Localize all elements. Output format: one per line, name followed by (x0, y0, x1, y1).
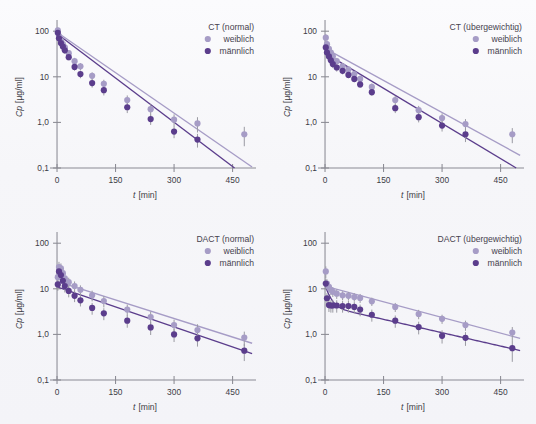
data-point (334, 302, 340, 308)
legend-title: CT (übergewichtig) (450, 22, 523, 32)
data-points-männlich (323, 44, 469, 137)
data-point (323, 35, 329, 41)
data-point (339, 292, 345, 298)
data-point (55, 281, 61, 287)
data-point (345, 303, 351, 309)
y-tick-label: 100 (35, 26, 49, 36)
data-point (89, 80, 95, 86)
y-axis-title: Cp[µg/ml] (282, 77, 292, 117)
data-point (392, 105, 398, 111)
y-tick-label: 1,0 (305, 329, 317, 339)
y-tick-label: 0,1 (37, 375, 49, 385)
panel-dact-normal: 0,11,0101000150300450t[min]Cp[µg/ml]DACT… (0, 212, 268, 424)
x-tick-label: 450 (494, 175, 508, 185)
data-point (351, 76, 357, 82)
chart-ct-uebergewichtig: 0,11,0101000150300450t[min]Cp[µg/ml]CT (… (268, 0, 536, 212)
legend-label-männlich: männlich (488, 258, 523, 268)
x-tick-label: 0 (323, 387, 328, 397)
legend-marker-männlich (473, 260, 479, 266)
y-tick-label: 0,1 (305, 163, 317, 173)
x-tick-label: 0 (55, 175, 60, 185)
data-point (369, 298, 375, 304)
data-point (392, 97, 398, 103)
data-point (194, 120, 200, 126)
x-axis-ticks: 0150300450 (323, 376, 508, 397)
x-tick-label: 450 (226, 387, 240, 397)
x-axis-title: t[min] (401, 402, 425, 412)
data-point (66, 288, 72, 294)
data-point (77, 297, 83, 303)
legend-label-männlich: männlich (220, 258, 255, 268)
y-tick-label: 10 (308, 72, 318, 82)
x-tick-label: 150 (109, 175, 123, 185)
data-point (345, 293, 351, 299)
legend: CT (übergewichtig)weiblichmännlich (450, 22, 523, 56)
data-point (241, 335, 247, 341)
data-point (345, 72, 351, 78)
panel-dact-uebergewichtig: 0,11,0101000150300450t[min]Cp[µg/ml]DACT… (268, 212, 536, 424)
svg-text:Cp[µg/ml]: Cp[µg/ml] (14, 77, 24, 117)
data-point (439, 333, 445, 339)
data-point (416, 107, 422, 113)
legend: DACT (übergewichtig)weiblichmännlich (438, 234, 523, 268)
panel-ct-uebergewichtig: 0,11,0101000150300450t[min]Cp[µg/ml]CT (… (268, 0, 536, 212)
data-point (369, 312, 375, 318)
y-axis-title: Cp[µg/ml] (14, 289, 24, 329)
legend-marker-weiblich (205, 248, 211, 254)
data-point (462, 335, 468, 341)
x-tick-label: 150 (377, 175, 391, 185)
svg-text:Cp[µg/ml]: Cp[µg/ml] (282, 289, 292, 329)
chart-dact-uebergewichtig: 0,11,0101000150300450t[min]Cp[µg/ml]DACT… (268, 212, 536, 424)
data-point (77, 63, 83, 69)
data-point (124, 104, 130, 110)
data-point (357, 295, 363, 301)
data-point (509, 131, 515, 137)
data-point (351, 294, 357, 300)
data-point (101, 310, 107, 316)
data-point (357, 81, 363, 87)
legend-label-weiblich: weiblich (490, 246, 522, 256)
data-point (339, 303, 345, 309)
data-point (439, 123, 445, 129)
data-point (323, 268, 329, 274)
data-point (439, 115, 445, 121)
data-point (392, 304, 398, 310)
chart-dact-normal: 0,11,0101000150300450t[min]Cp[µg/ml]DACT… (0, 212, 268, 424)
y-tick-label: 1,0 (37, 329, 49, 339)
y-tick-label: 10 (40, 284, 50, 294)
data-point (509, 345, 515, 351)
legend-title: DACT (normal) (196, 234, 254, 244)
data-point (77, 71, 83, 77)
legend-marker-männlich (205, 48, 211, 54)
data-point (416, 114, 422, 120)
x-axis-ticks: 0150300450 (323, 164, 508, 185)
data-point (462, 131, 468, 137)
data-point (462, 322, 468, 328)
x-tick-label: 0 (323, 175, 328, 185)
x-tick-label: 300 (167, 175, 181, 185)
data-point (124, 306, 130, 312)
data-point (345, 66, 351, 72)
data-point (241, 131, 247, 137)
data-point (334, 64, 340, 70)
data-point (324, 295, 330, 301)
legend-label-männlich: männlich (488, 46, 523, 56)
data-point (124, 318, 130, 324)
data-point (58, 272, 64, 278)
data-point (369, 89, 375, 95)
data-point (509, 329, 515, 335)
legend-label-männlich: männlich (220, 46, 255, 56)
x-tick-label: 450 (226, 175, 240, 185)
data-point (194, 327, 200, 333)
legend-marker-männlich (205, 260, 211, 266)
data-point (62, 47, 68, 53)
y-tick-label: 100 (303, 238, 317, 248)
y-tick-label: 0,1 (37, 163, 49, 173)
data-point (171, 331, 177, 337)
y-tick-label: 1,0 (37, 117, 49, 127)
data-point (171, 117, 177, 123)
data-point (439, 316, 445, 322)
data-point (416, 311, 422, 317)
y-tick-label: 100 (35, 238, 49, 248)
legend-marker-männlich (473, 48, 479, 54)
